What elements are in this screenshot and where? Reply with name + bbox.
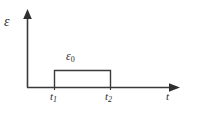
pulse-amplitude-label: ε0 [66, 50, 75, 62]
tick-label-t2-subscript: 2 [108, 95, 112, 104]
x-axis-arrowhead-icon [169, 83, 180, 92]
y-axis-arrowhead-icon [23, 9, 32, 19]
x-axis-label: t [166, 91, 169, 102]
tick-label-t2: t2 [105, 91, 112, 102]
y-axis-label: ε [4, 15, 10, 29]
pulse-rectangle-outline [55, 71, 111, 88]
plot-canvas [0, 0, 199, 115]
tick-label-t1-subscript: 1 [53, 95, 57, 104]
tick-label-t1: t1 [50, 91, 57, 102]
emf-pulse-figure: ε ε0 t1 t2 t [0, 0, 199, 115]
pulse-amplitude-subscript: 0 [71, 55, 75, 64]
